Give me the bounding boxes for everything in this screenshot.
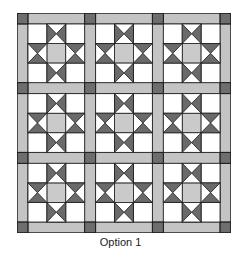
cornerstone [85,13,96,24]
star-center [182,113,201,133]
caption: Option 1 [0,236,241,248]
quilt-svg [17,13,231,233]
cornerstone [220,152,231,163]
star-center [182,183,201,203]
star-center [115,44,134,64]
star-center [115,183,134,203]
star-center [115,113,134,133]
cornerstone [152,83,163,94]
cornerstone [152,13,163,24]
cornerstone [85,152,96,163]
cornerstone [85,222,96,233]
cornerstone [152,152,163,163]
quilt-diagram [17,13,231,233]
star-center [47,113,66,133]
cornerstone [220,83,231,94]
cornerstone [220,222,231,233]
cornerstone [17,152,28,163]
cornerstone [85,83,96,94]
star-center [47,183,66,203]
cornerstone [17,13,28,24]
cornerstone [220,13,231,24]
cornerstone [152,222,163,233]
star-center [47,44,66,64]
cornerstone [17,83,28,94]
star-center [182,44,201,64]
cornerstone [17,222,28,233]
